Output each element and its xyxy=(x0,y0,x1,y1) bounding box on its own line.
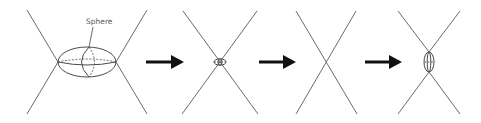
cross-line-a-top xyxy=(27,10,58,62)
cross-line-a xyxy=(183,11,258,114)
stage-2 xyxy=(182,11,258,114)
sphere-meridian-back xyxy=(89,47,95,77)
sphere-equator-back xyxy=(58,59,116,62)
sphere-meridian-front xyxy=(82,47,90,77)
stage-4 xyxy=(398,11,460,114)
cross-line-a-top xyxy=(398,11,429,52)
cross-line-b-top xyxy=(116,10,147,62)
arrow-3-head xyxy=(389,55,402,69)
arrow-2 xyxy=(259,55,296,69)
sphere-equator-front xyxy=(58,62,116,65)
cross-line-b xyxy=(182,11,257,114)
cross-line-a-bottom xyxy=(398,72,429,114)
arrow-2-head xyxy=(283,55,296,69)
stage-3 xyxy=(296,11,357,114)
stage-1: Sphere xyxy=(27,10,147,114)
arrow-3 xyxy=(365,55,402,69)
cross-line-a-bottom xyxy=(27,62,58,114)
sphere-outer-ellipse xyxy=(58,47,116,77)
sphere-label: Sphere xyxy=(86,17,113,26)
diagram: Sphere xyxy=(0,0,481,123)
cross-line-b-top xyxy=(429,11,460,52)
arrow-1-head xyxy=(171,55,184,69)
cross-line-b-bottom xyxy=(429,72,460,114)
sphere-label-leader xyxy=(89,27,93,47)
cross-line-b-bottom xyxy=(116,62,147,114)
arrow-1 xyxy=(146,55,184,69)
